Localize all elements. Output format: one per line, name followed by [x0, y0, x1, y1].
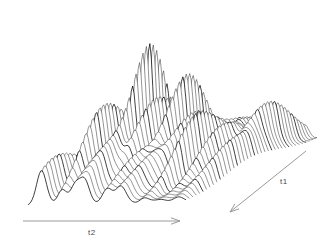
mesh-profile-lines	[28, 44, 317, 208]
axis-label-t1: t1	[280, 177, 288, 186]
axis-label-t2: t2	[88, 228, 96, 237]
surface-plot-figure: t2 t1	[0, 0, 317, 248]
t2-axis-arrow	[23, 218, 180, 224]
surface-mesh-canvas	[0, 0, 317, 248]
